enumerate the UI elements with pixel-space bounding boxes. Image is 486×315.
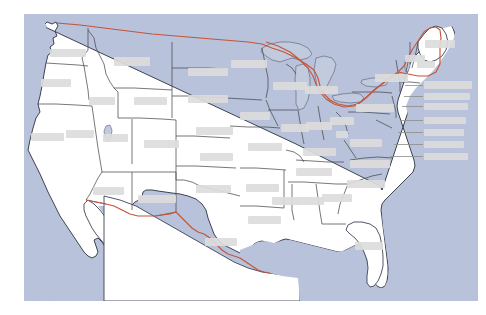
label-wisconsin[interactable] <box>273 82 307 90</box>
leader-massachusetts <box>405 85 423 86</box>
label-arkansas[interactable] <box>246 184 279 192</box>
label-indiana[interactable] <box>306 122 332 130</box>
label-delaware[interactable] <box>424 129 464 136</box>
label-arizona[interactable] <box>93 187 124 195</box>
label-tennessee[interactable] <box>296 168 332 176</box>
label-utah[interactable] <box>103 134 128 142</box>
leader-rhode-island <box>404 96 423 97</box>
label-oklahoma[interactable] <box>196 185 231 193</box>
label-montana[interactable] <box>114 57 150 66</box>
label-new-jersey[interactable] <box>424 117 466 124</box>
label-maine[interactable] <box>425 40 455 48</box>
label-alabama[interactable] <box>297 197 324 205</box>
label-michigan[interactable] <box>305 86 338 94</box>
label-idaho[interactable] <box>89 97 115 105</box>
label-new-mexico[interactable] <box>138 195 176 203</box>
label-new-hampshire[interactable] <box>417 61 435 68</box>
label-north-carolina[interactable] <box>350 160 390 168</box>
label-district-of-columbia[interactable] <box>424 153 468 160</box>
label-nebraska[interactable] <box>196 127 233 135</box>
label-north-dakota[interactable] <box>188 68 228 76</box>
label-massachusetts[interactable] <box>424 81 472 89</box>
label-pennsylvania[interactable] <box>356 104 394 112</box>
label-rhode-island[interactable] <box>424 93 470 100</box>
leader-maryland <box>394 144 423 145</box>
label-west-virginia[interactable] <box>336 131 348 138</box>
us-map-graphic[interactable] <box>0 0 486 315</box>
label-ohio[interactable] <box>330 117 354 125</box>
label-louisiana[interactable] <box>248 216 281 224</box>
label-wyoming[interactable] <box>134 97 167 105</box>
us-map-figure <box>0 0 486 315</box>
label-illinois[interactable] <box>281 124 309 132</box>
label-oregon[interactable] <box>41 79 71 87</box>
label-new-york[interactable] <box>375 74 408 82</box>
leader-dc <box>390 156 423 157</box>
label-florida[interactable] <box>355 242 383 250</box>
label-colorado[interactable] <box>144 140 179 148</box>
label-georgia[interactable] <box>322 194 352 202</box>
label-south-carolina[interactable] <box>347 180 385 188</box>
label-missouri[interactable] <box>248 143 282 151</box>
label-maryland[interactable] <box>424 141 464 148</box>
label-iowa[interactable] <box>240 112 270 120</box>
leader-delaware <box>398 132 423 133</box>
label-nevada[interactable] <box>66 130 94 138</box>
label-mississippi[interactable] <box>272 197 299 205</box>
label-connecticut[interactable] <box>424 103 468 110</box>
label-kansas[interactable] <box>200 153 233 161</box>
leader-new-jersey <box>400 120 423 121</box>
label-south-dakota[interactable] <box>188 95 228 103</box>
label-minnesota[interactable] <box>231 60 267 68</box>
label-virginia[interactable] <box>350 139 382 147</box>
label-washington[interactable] <box>50 49 86 57</box>
label-kentucky[interactable] <box>303 148 336 156</box>
leader-connecticut <box>402 106 423 107</box>
label-texas[interactable] <box>205 238 237 246</box>
label-california[interactable] <box>31 133 64 141</box>
